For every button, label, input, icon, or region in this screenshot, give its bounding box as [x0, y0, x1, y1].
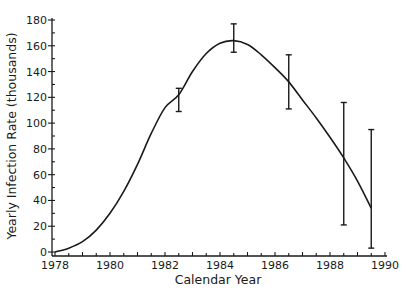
y-axis-title: Yearly Infection Rate (thousands) [4, 32, 19, 240]
y-tick-label: 40 [33, 194, 47, 207]
infection-rate-chart: 020406080100120140160180 197819801982198… [0, 0, 406, 293]
x-tick-label: 1982 [151, 259, 179, 272]
y-tick-label: 100 [26, 117, 47, 130]
error-bar [368, 130, 374, 249]
error-bar [341, 102, 347, 224]
plot-area [55, 24, 374, 252]
y-tick-label: 120 [26, 91, 47, 104]
y-tick-label: 60 [33, 169, 47, 182]
infection-curve [55, 41, 371, 252]
x-tick-label: 1980 [96, 259, 124, 272]
x-tick-label: 1990 [371, 259, 399, 272]
error-bar [231, 24, 237, 52]
y-tick-label: 20 [33, 220, 47, 233]
y-tick-label: 140 [26, 66, 47, 79]
x-tick-label: 1988 [316, 259, 344, 272]
y-tick-label: 180 [26, 14, 47, 27]
x-axis-title: Calendar Year [175, 272, 263, 287]
y-tick-label: 0 [40, 246, 47, 259]
y-axis: 020406080100120140160180 [26, 14, 55, 259]
x-tick-label: 1984 [206, 259, 234, 272]
y-tick-label: 80 [33, 143, 47, 156]
y-tick-label: 160 [26, 40, 47, 53]
x-tick-label: 1986 [261, 259, 289, 272]
x-axis: 1978198019821984198619881990 [41, 252, 399, 272]
error-bar [286, 55, 292, 109]
x-tick-label: 1978 [41, 259, 69, 272]
